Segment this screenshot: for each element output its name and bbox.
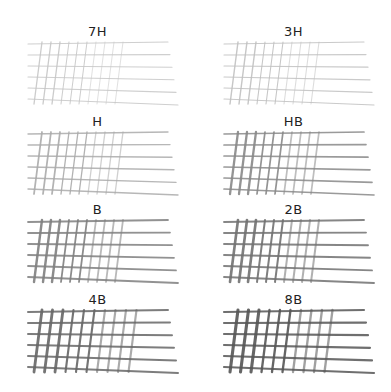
vertical-stroke xyxy=(248,220,256,282)
vertical-stroke xyxy=(230,42,238,104)
vertical-stroke xyxy=(79,42,87,104)
horizontal-stroke xyxy=(28,220,168,222)
vertical-stroke xyxy=(55,310,63,372)
vertical-stroke xyxy=(34,310,42,372)
vertical-stroke xyxy=(108,310,116,372)
horizontal-stroke xyxy=(224,66,368,67)
vertical-stroke xyxy=(129,310,137,372)
vertical-stroke xyxy=(79,132,87,194)
horizontal-stroke xyxy=(224,220,364,222)
vertical-stroke xyxy=(61,42,69,104)
vertical-stroke xyxy=(304,310,312,372)
vertical-stroke xyxy=(34,220,42,282)
horizontal-stroke xyxy=(224,367,374,373)
horizontal-stroke xyxy=(224,77,370,80)
horizontal-stroke xyxy=(224,99,374,105)
vertical-stroke xyxy=(293,220,301,282)
hatch-pattern xyxy=(196,216,391,294)
horizontal-stroke xyxy=(224,356,372,360)
horizontal-stroke xyxy=(28,189,178,195)
vertical-stroke xyxy=(115,42,123,104)
swatch-hb: HB xyxy=(196,108,391,206)
horizontal-stroke xyxy=(28,178,176,182)
vertical-stroke xyxy=(106,132,114,194)
vertical-stroke xyxy=(106,42,114,104)
vertical-stroke xyxy=(70,132,78,194)
vertical-stroke xyxy=(284,42,292,104)
horizontal-stroke xyxy=(224,132,364,134)
vertical-stroke xyxy=(302,132,310,194)
swatch-7h: 7H xyxy=(0,18,195,116)
hatch-pattern xyxy=(0,216,195,294)
vertical-stroke xyxy=(87,310,95,372)
horizontal-stroke xyxy=(28,277,178,283)
vertical-stroke xyxy=(262,310,270,372)
vertical-stroke xyxy=(275,42,283,104)
vertical-stroke xyxy=(43,132,51,194)
vertical-stroke xyxy=(97,220,105,282)
vertical-stroke xyxy=(45,310,53,372)
hatch-pattern xyxy=(0,306,195,384)
vertical-stroke xyxy=(115,220,123,282)
vertical-stroke xyxy=(106,220,114,282)
vertical-stroke xyxy=(52,132,60,194)
vertical-stroke xyxy=(293,310,301,372)
vertical-stroke xyxy=(61,132,69,194)
vertical-stroke xyxy=(293,42,301,104)
vertical-stroke xyxy=(230,310,238,372)
vertical-stroke xyxy=(34,42,42,104)
horizontal-stroke xyxy=(224,156,368,157)
horizontal-stroke xyxy=(28,77,174,80)
grade-label: 8B xyxy=(196,292,391,307)
swatch-b: B xyxy=(0,196,195,294)
vertical-stroke xyxy=(43,42,51,104)
swatch-3h: 3H xyxy=(196,18,391,116)
horizontal-stroke xyxy=(28,132,168,134)
hatch-pattern xyxy=(196,38,391,116)
horizontal-stroke xyxy=(224,244,368,245)
vertical-stroke xyxy=(66,310,74,372)
vertical-stroke xyxy=(311,132,319,194)
vertical-stroke xyxy=(79,220,87,282)
vertical-stroke xyxy=(257,132,265,194)
horizontal-stroke xyxy=(28,156,172,157)
horizontal-stroke xyxy=(28,88,176,92)
vertical-stroke xyxy=(230,220,238,282)
vertical-stroke xyxy=(293,132,301,194)
vertical-stroke xyxy=(257,220,265,282)
vertical-stroke xyxy=(266,132,274,194)
vertical-stroke xyxy=(266,220,274,282)
vertical-stroke xyxy=(283,310,291,372)
vertical-stroke xyxy=(88,42,96,104)
vertical-stroke xyxy=(97,42,105,104)
swatch-h: H xyxy=(0,108,195,206)
horizontal-stroke xyxy=(28,66,172,67)
vertical-stroke xyxy=(266,42,274,104)
vertical-stroke xyxy=(61,220,69,282)
vertical-stroke xyxy=(70,42,78,104)
swatch-2b: 2B xyxy=(196,196,391,294)
vertical-stroke xyxy=(248,132,256,194)
vertical-stroke xyxy=(284,220,292,282)
vertical-stroke xyxy=(314,310,322,372)
hatch-pattern xyxy=(196,306,391,384)
vertical-stroke xyxy=(97,310,105,372)
horizontal-stroke xyxy=(224,310,364,312)
horizontal-stroke xyxy=(28,367,178,373)
grade-label: 2B xyxy=(196,202,391,217)
vertical-stroke xyxy=(115,132,123,194)
horizontal-stroke xyxy=(28,99,178,105)
vertical-stroke xyxy=(239,220,247,282)
vertical-stroke xyxy=(275,132,283,194)
horizontal-stroke xyxy=(28,244,172,245)
horizontal-stroke xyxy=(224,178,372,182)
horizontal-stroke xyxy=(28,266,176,270)
vertical-stroke xyxy=(76,310,84,372)
grade-label: 4B xyxy=(0,292,195,307)
vertical-stroke xyxy=(43,220,51,282)
vertical-stroke xyxy=(52,42,60,104)
vertical-stroke xyxy=(52,220,60,282)
horizontal-stroke xyxy=(224,88,372,92)
vertical-stroke xyxy=(251,310,259,372)
vertical-stroke xyxy=(34,132,42,194)
